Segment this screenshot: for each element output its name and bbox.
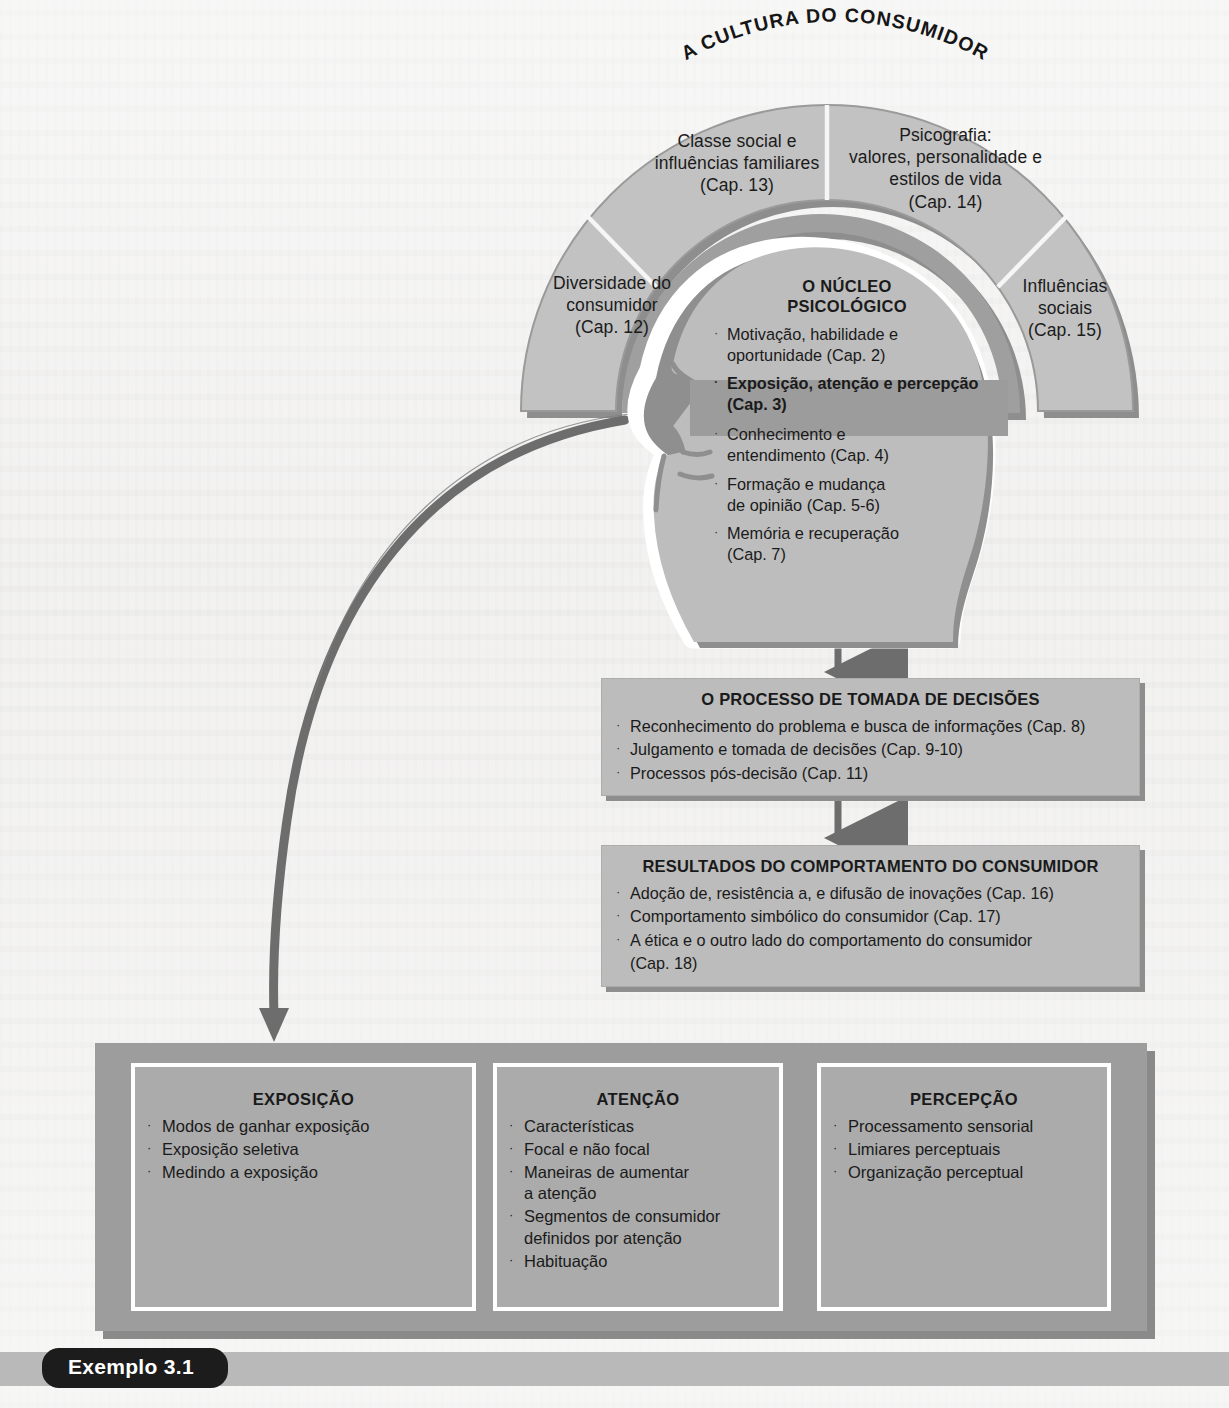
core-item: · Conhecimento e entendimento (Cap. 4) [712,424,982,466]
bullet-icon: · [714,373,727,415]
list-item: · Maneiras de aumentar a atenção [509,1162,767,1206]
bottom-box-percepcao: PERCEPÇÃO · Processamento sensorial · Li… [817,1063,1111,1311]
bullet-icon: · [714,324,727,366]
core-title: O NÚCLEO PSICOLÓGICO [712,277,982,317]
core-item: · Motivação, habilidade e oportunidade (… [712,324,982,366]
list-item: · Julgamento e tomada de decisões (Cap. … [616,738,1125,761]
bullet-icon: · [833,1116,848,1138]
decision-process-box: O PROCESSO DE TOMADA DE DECISÕES · Recon… [601,678,1140,796]
outcomes-list: · Adoção de, resistência a, e difusão de… [616,882,1125,976]
bullet-icon: · [616,738,630,761]
bullet-icon: · [616,905,630,928]
list-item: · Segmentos de consumidor definidos por … [509,1206,767,1250]
list-item: · Processos pós-decisão (Cap. 11) [616,762,1125,785]
bottom-box-atencao: ATENÇÃO · Características · Focal e não … [493,1063,783,1311]
list-item: · Processamento sensorial [833,1116,1095,1138]
list-item: · Adoção de, resistência a, e difusão de… [616,882,1125,905]
bullet-icon: · [509,1139,524,1161]
decision-process-list: · Reconhecimento do problema e busca de … [616,715,1125,785]
psychological-core-block: O NÚCLEO PSICOLÓGICO · Motivação, habili… [712,277,982,572]
bullet-icon: · [616,929,630,976]
bullet-icon: · [147,1162,162,1184]
bottom-box-list: · Modos de ganhar exposição · Exposição … [147,1116,460,1183]
core-item: · Memória e recuperação (Cap. 7) [712,523,982,565]
bottom-box-list: · Características · Focal e não focal · … [509,1116,767,1272]
list-item: · Medindo a exposição [147,1162,460,1184]
bottom-panel: EXPOSIÇÃO · Modos de ganhar exposição · … [95,1043,1147,1331]
outcomes-box: RESULTADOS DO COMPORTAMENTO DO CONSUMIDO… [601,845,1140,987]
list-item: · Características [509,1116,767,1138]
core-item: · Formação e mudança de opinião (Cap. 5-… [712,474,982,516]
bottom-box-title: ATENÇÃO [509,1090,767,1109]
bullet-icon: · [616,715,630,738]
outcomes-title: RESULTADOS DO COMPORTAMENTO DO CONSUMIDO… [616,857,1125,876]
bullet-icon: · [509,1206,524,1250]
bullet-icon: · [147,1139,162,1161]
bullet-icon: · [714,424,727,466]
bottom-box-title: PERCEPÇÃO [833,1090,1095,1109]
bullet-icon: · [833,1139,848,1161]
list-item: · Organização perceptual [833,1162,1095,1184]
figure-stage: A CULTURA DO CONSUMIDOR [0,0,1229,1408]
bullet-icon: · [509,1251,524,1273]
list-item: · Modos de ganhar exposição [147,1116,460,1138]
decision-process-title: O PROCESSO DE TOMADA DE DECISÕES [616,690,1125,709]
bullet-icon: · [616,882,630,905]
bullet-icon: · [616,762,630,785]
list-item: · Reconhecimento do problema e busca de … [616,715,1125,738]
list-item: · Exposição seletiva [147,1139,460,1161]
bottom-box-exposicao: EXPOSIÇÃO · Modos de ganhar exposição · … [131,1063,476,1311]
wedge-label-psicografia: Psicografia: valores, personalidade e es… [838,124,1053,213]
bottom-box-title: EXPOSIÇÃO [147,1090,460,1109]
bullet-icon: · [833,1162,848,1184]
list-item: · A ética e o outro lado do comportament… [616,929,1125,976]
bullet-icon: · [147,1116,162,1138]
bullet-icon: · [714,474,727,516]
bullet-icon: · [714,523,727,565]
core-item-highlighted: · Exposição, atenção e percepção (Cap. 3… [712,373,982,415]
list-item: · Habituação [509,1251,767,1273]
wedge-label-diversidade: Diversidade do consumidor (Cap. 12) [537,272,687,339]
caption-tag: Exemplo 3.1 [42,1348,228,1388]
list-item: · Limiares perceptuais [833,1139,1095,1161]
list-item: · Comportamento simbólico do consumidor … [616,905,1125,928]
bottom-box-list: · Processamento sensorial · Limiares per… [833,1116,1095,1183]
list-item: · Focal e não focal [509,1139,767,1161]
bullet-icon: · [509,1116,524,1138]
wedge-label-influencias-sociais: Influências sociais (Cap. 15) [1001,275,1129,342]
bullet-icon: · [509,1162,524,1206]
wedge-label-classe-social: Classe social e influências familiares (… [639,130,835,197]
